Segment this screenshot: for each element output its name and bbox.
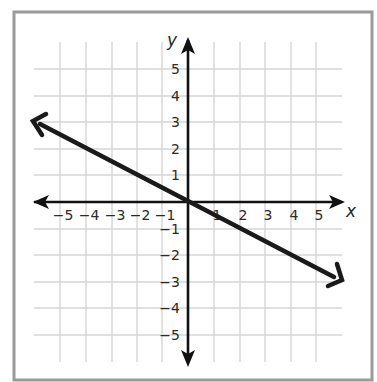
- x-tick-label: 3: [264, 207, 273, 223]
- y-tick-label: 3: [171, 114, 180, 130]
- x-tick-label: 2: [239, 207, 248, 223]
- y-tick-label: 5: [171, 61, 180, 77]
- frame: [14, 12, 372, 380]
- x-tick-label: −5: [53, 207, 74, 223]
- x-tick-label: −4: [79, 207, 100, 223]
- y-tick-label: −3: [159, 274, 180, 290]
- y-tick-label: −2: [159, 247, 180, 263]
- x-tick-label: 5: [315, 207, 324, 223]
- y-tick-label: 4: [171, 88, 180, 104]
- y-tick-label: −1: [159, 221, 180, 237]
- x-tick-label: 4: [290, 207, 299, 223]
- x-tick-label: −2: [130, 207, 151, 223]
- x-tick-label: −3: [105, 207, 126, 223]
- coordinate-plane: −5−4−3−2−112345 54321−1−2−3−4−5 x y: [0, 0, 377, 382]
- x-axis-label: x: [345, 201, 357, 221]
- y-tick-label: 2: [171, 141, 180, 157]
- y-axis-label: y: [166, 30, 178, 50]
- y-tick-label: −5: [159, 327, 180, 343]
- y-tick-label: 1: [171, 167, 180, 183]
- y-tick-label: −4: [159, 300, 180, 316]
